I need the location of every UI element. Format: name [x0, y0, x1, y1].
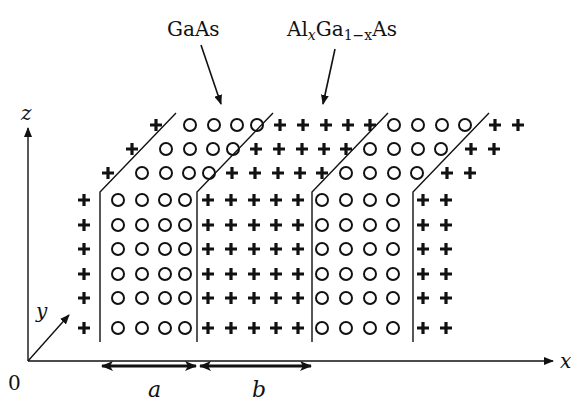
circle-site [159, 268, 171, 280]
plus-site [248, 322, 260, 334]
circle-site [112, 243, 124, 255]
circle-site [179, 322, 191, 334]
circle-site [387, 292, 399, 304]
circle-site [364, 292, 376, 304]
circle-site [436, 119, 448, 131]
plus-site [489, 119, 501, 131]
circle-site [387, 243, 399, 255]
algaas-x-sub: x [308, 27, 316, 43]
circle-site [136, 167, 148, 179]
width-a-label: a [148, 377, 161, 402]
circle-site [412, 143, 424, 155]
plus-site [297, 119, 309, 131]
plus-site [320, 119, 332, 131]
plus-site [270, 194, 282, 206]
plus-site [249, 167, 261, 179]
circle-site [316, 243, 328, 255]
plus-site [296, 143, 308, 155]
plus-site [417, 322, 429, 334]
plus-site [78, 292, 90, 304]
plus-site [202, 194, 214, 206]
plus-site [292, 194, 304, 206]
circle-site [136, 194, 148, 206]
circle-site [411, 167, 423, 179]
plus-site [440, 194, 452, 206]
circle-site [316, 292, 328, 304]
plus-site [440, 243, 452, 255]
axes [28, 128, 553, 361]
circle-site [340, 243, 352, 255]
circle-site [112, 292, 124, 304]
circle-site [388, 143, 400, 155]
circle-site [136, 243, 148, 255]
plus-site [78, 194, 90, 206]
plus-site [417, 243, 429, 255]
gaas-label: GaAs [167, 17, 220, 41]
plus-site [292, 219, 304, 231]
plus-site [226, 167, 238, 179]
plus-site [270, 322, 282, 334]
circle-site [112, 322, 124, 334]
plus-site [102, 167, 114, 179]
circle-site [179, 292, 191, 304]
plus-site [440, 292, 452, 304]
circle-site [340, 268, 352, 280]
circle-site [340, 167, 352, 179]
circle-site [340, 219, 352, 231]
plus-site [292, 268, 304, 280]
axis-x-label: x [560, 349, 571, 373]
plus-site [488, 143, 500, 155]
origin-label: 0 [8, 371, 21, 395]
circle-site [179, 194, 191, 206]
circle-site [112, 219, 124, 231]
algaas-ga: Ga [316, 17, 344, 41]
lattice-sites [78, 119, 524, 334]
plus-site [202, 322, 214, 334]
axis-y-label: y [35, 299, 48, 323]
circle-site [184, 119, 196, 131]
plus-site [248, 194, 260, 206]
plus-site [248, 243, 260, 255]
circle-site [179, 268, 191, 280]
circle-site [364, 268, 376, 280]
plus-site [270, 292, 282, 304]
circle-site [136, 322, 148, 334]
circle-site [207, 143, 219, 155]
plus-site [202, 219, 214, 231]
plus-site [364, 119, 376, 131]
plus-site [270, 268, 282, 280]
plus-site [225, 322, 237, 334]
plus-site [465, 143, 477, 155]
plus-site [294, 167, 306, 179]
circle-site [388, 119, 400, 131]
plus-site [78, 268, 90, 280]
plus-site [202, 292, 214, 304]
plus-site [292, 322, 304, 334]
plus-site [440, 322, 452, 334]
circle-site [159, 243, 171, 255]
algaas-sub: 1−x [344, 27, 373, 43]
circle-site [112, 268, 124, 280]
axis-z-label: z [20, 101, 32, 125]
plus-site [273, 143, 285, 155]
circle-site [340, 292, 352, 304]
plus-site [270, 243, 282, 255]
circle-site [160, 143, 172, 155]
circle-site [159, 322, 171, 334]
plus-site [270, 219, 282, 231]
plus-site [417, 219, 429, 231]
circle-site [364, 194, 376, 206]
plus-site [417, 292, 429, 304]
circle-site [412, 119, 424, 131]
circle-site [316, 322, 328, 334]
circle-site [387, 219, 399, 231]
circle-site [160, 167, 172, 179]
plus-site [78, 219, 90, 231]
circle-site [388, 167, 400, 179]
plus-site [292, 292, 304, 304]
circle-site [112, 194, 124, 206]
algaas-pointer-arrow [323, 49, 335, 104]
plus-site [225, 292, 237, 304]
plus-site [202, 268, 214, 280]
plus-site [441, 167, 453, 179]
